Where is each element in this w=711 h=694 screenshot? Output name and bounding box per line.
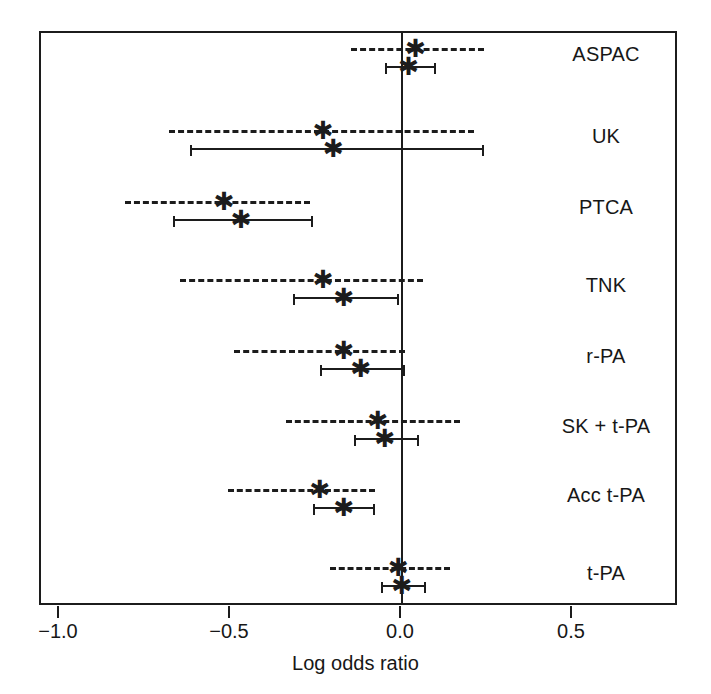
interval-cap-left [190,145,192,156]
interval-cap-right [311,216,313,227]
confidence-interval-dashed [234,350,405,353]
interval-cap-right [403,365,405,376]
x-axis-tick-label: −1.0 [38,620,77,643]
x-axis-tick [399,606,401,618]
interval-cap-left [313,504,315,515]
interval-cap-right [424,582,426,593]
interval-cap-left [354,435,356,446]
x-axis-tick [57,606,59,618]
interval-cap-left [381,582,383,593]
interval-cap-left [293,294,295,305]
row-label-sk-t-pa: SK + t-PA [562,415,651,438]
confidence-interval-dashed [228,489,375,492]
x-axis-tick [570,606,572,618]
zero-reference-line [401,33,403,603]
row-label-acc-t-pa: Acc t-PA [567,484,645,507]
x-axis-tick-label: 0.5 [557,620,585,643]
interval-cap-left [385,63,387,74]
x-axis-tick [228,606,230,618]
row-label-tnk: TNK [586,274,627,297]
row-label-uk: UK [592,125,620,148]
interval-cap-right [373,504,375,515]
interval-cap-right [482,145,484,156]
row-label-r-pa: r-PA [586,345,625,368]
row-label-aspac: ASPAC [572,43,639,66]
interval-cap-right [397,294,399,305]
forest-plot-figure: ✱✱✱✱✱✱✱✱✱✱✱✱✱✱✱✱ ASPACUKPTCATNKr-PASK + … [0,0,711,694]
row-label-ptca: PTCA [579,196,633,219]
row-label-t-pa: t-PA [587,562,625,585]
interval-cap-left [173,216,175,227]
plot-area: ✱✱✱✱✱✱✱✱✱✱✱✱✱✱✱✱ [39,31,677,605]
x-axis-tick-label: −0.5 [209,620,248,643]
interval-cap-right [417,435,419,446]
interval-cap-right [434,63,436,74]
x-axis-title: Log odds ratio [0,652,711,675]
interval-cap-left [320,365,322,376]
confidence-interval-dashed [180,279,423,282]
x-axis-tick-label: 0.0 [386,620,414,643]
